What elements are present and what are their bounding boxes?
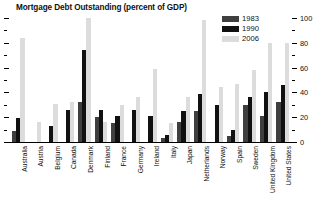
bar-group (161, 18, 174, 142)
category-label: United Kingdom (269, 146, 276, 193)
y-tick-minor (4, 105, 7, 106)
category-label: Denmark (87, 146, 94, 173)
y-tick-major (4, 68, 9, 69)
legend-item: 2006 (222, 34, 259, 43)
y-axis-label: 20 (300, 113, 308, 122)
category-label: Ireland (153, 146, 160, 166)
bar-group (194, 18, 207, 142)
y-tick-major (4, 142, 9, 143)
y-tick-major (292, 18, 297, 19)
bar-group (78, 18, 91, 142)
bar-group (95, 18, 108, 142)
y-axis-label: 0 (300, 138, 304, 147)
bar-group (260, 18, 273, 142)
category-label: United States (285, 146, 292, 186)
bar-2006 (202, 20, 206, 142)
bar-2006 (53, 104, 57, 142)
bar-2006 (153, 69, 157, 142)
y-axis-label: 100 (300, 14, 312, 23)
y-tick-minor (4, 130, 7, 131)
chart-title: Mortgage Debt Outstanding (percent of GD… (16, 3, 187, 12)
category-label: Germany (137, 146, 144, 173)
bar-2006 (103, 122, 107, 142)
bar-2006 (186, 97, 190, 142)
bar-group (128, 18, 141, 142)
category-label: France (120, 146, 127, 167)
bar-group (276, 18, 289, 142)
y-tick-minor (292, 130, 295, 131)
category-label: Australia (21, 146, 28, 172)
mortgage-debt-bar-chart: Mortgage Debt Outstanding (percent of GD… (0, 0, 317, 204)
category-label: Japan (186, 146, 193, 164)
y-tick-minor (292, 105, 295, 106)
y-tick-minor (292, 30, 295, 31)
bar-2006 (136, 97, 140, 142)
y-tick-major (4, 18, 9, 19)
category-label: Spain (236, 146, 243, 163)
y-tick-minor (292, 80, 295, 81)
category-label: Norway (219, 146, 226, 168)
bar-2006 (219, 87, 223, 142)
bar-group (144, 18, 157, 142)
category-label: Finland (104, 146, 111, 168)
legend-label: 2006 (242, 35, 259, 43)
bar-group (62, 18, 75, 142)
bar-2006 (120, 105, 124, 142)
legend-label: 1990 (242, 25, 259, 33)
legend-label: 1983 (242, 15, 259, 23)
bar-2006 (252, 70, 256, 142)
bar-2006 (285, 43, 289, 142)
bar-2006 (268, 43, 272, 142)
legend-swatch (222, 16, 239, 22)
y-axis-label: 40 (300, 88, 308, 97)
y-tick-major (4, 92, 9, 93)
bar-group (111, 18, 124, 142)
category-label: Italy (170, 146, 177, 158)
x-axis-baseline (8, 142, 296, 143)
bar-2006 (37, 122, 41, 142)
y-tick-major (292, 68, 297, 69)
legend-swatch (222, 26, 239, 32)
category-label: Netherlands (203, 146, 210, 182)
bar-group (45, 18, 58, 142)
bar-2006 (70, 102, 74, 142)
y-tick-major (292, 142, 297, 143)
y-tick-major (4, 43, 9, 44)
category-label: Sweden (252, 146, 259, 170)
y-tick-minor (292, 55, 295, 56)
chart-legend: 198319902006 (222, 14, 259, 44)
y-tick-minor (4, 55, 7, 56)
legend-item: 1983 (222, 14, 259, 23)
y-axis-label: 80 (300, 38, 308, 47)
category-label: Canada (70, 146, 77, 169)
bar-group (12, 18, 25, 142)
bar-group (28, 18, 41, 142)
y-tick-major (292, 92, 297, 93)
category-label: Austria (37, 146, 44, 167)
y-tick-major (292, 43, 297, 44)
bar-2006 (235, 84, 239, 142)
legend-item: 1990 (222, 24, 259, 33)
category-label: Belgium (54, 146, 61, 170)
bar-2006 (169, 123, 173, 142)
y-tick-minor (4, 30, 7, 31)
legend-swatch (222, 36, 239, 42)
bar-2006 (20, 38, 24, 142)
y-tick-major (292, 117, 297, 118)
y-axis-label: 60 (300, 63, 308, 72)
y-tick-major (4, 117, 9, 118)
y-tick-minor (4, 80, 7, 81)
bar-2006 (86, 18, 90, 142)
bar-group (177, 18, 190, 142)
